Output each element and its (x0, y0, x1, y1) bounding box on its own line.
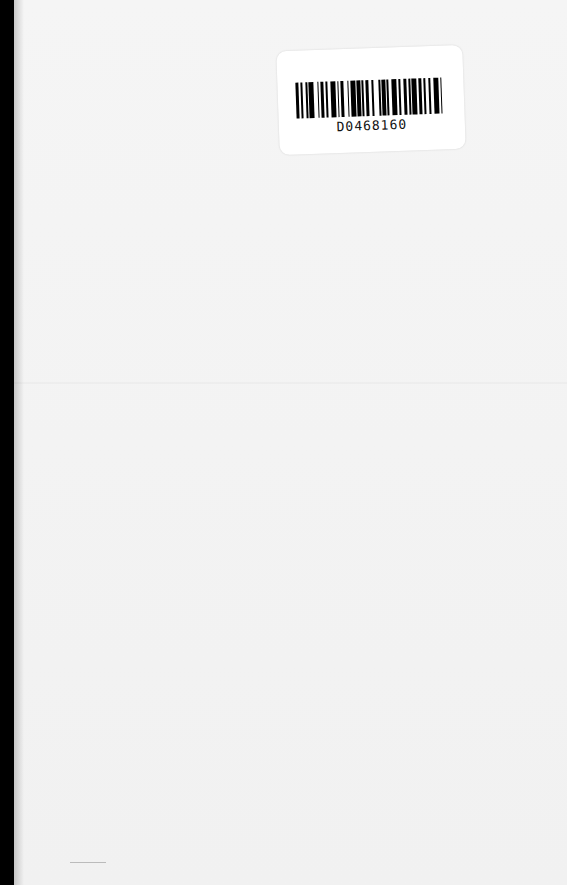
barcode-icon (295, 77, 446, 118)
page-edge-shadow (14, 0, 24, 885)
scan-mark (70, 862, 106, 863)
barcode-sticker: D0468160 (276, 45, 466, 155)
